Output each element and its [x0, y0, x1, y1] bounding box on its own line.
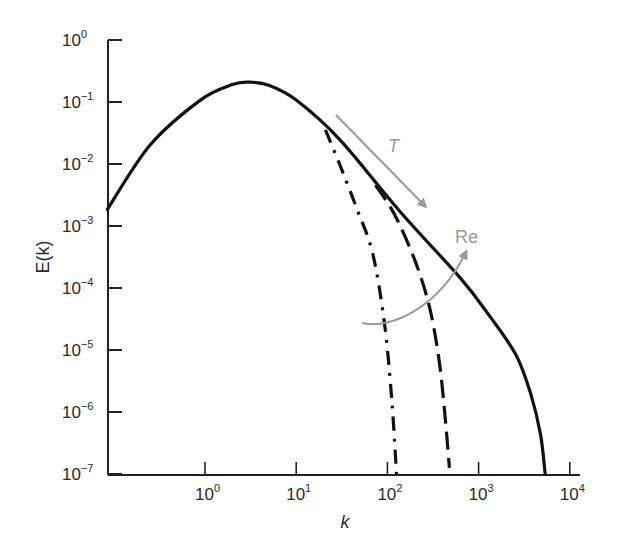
series-dashdot	[325, 130, 396, 474]
x-tick-label: 101	[286, 482, 311, 504]
energy-spectrum-chart: 10010−110−210−310−410−510−610−7 10010110…	[0, 0, 624, 553]
x-tick-label: 102	[377, 482, 402, 504]
y-tick-label: 10−6	[62, 400, 93, 422]
y-tick-label: 10−7	[62, 462, 93, 484]
x-axis-label: k	[341, 512, 351, 532]
series-solid	[107, 82, 545, 474]
y-tick-label: 10−4	[62, 276, 93, 298]
series-layer	[107, 82, 545, 474]
y-tick-label: 10−1	[62, 90, 93, 112]
temperature-label: T	[388, 136, 401, 156]
y-tick-label: 10−2	[62, 152, 93, 174]
y-tick-label: 10−3	[62, 214, 93, 236]
annotation-Re: Re	[362, 227, 478, 324]
x-tick-label: 103	[469, 482, 494, 504]
axes	[108, 40, 580, 475]
x-ticks: 100101102103104	[195, 462, 585, 504]
y-tick-label: 100	[62, 28, 87, 50]
x-tick-label: 104	[560, 482, 585, 504]
y-tick-label: 10−5	[62, 338, 93, 360]
reynolds-label: Re	[455, 227, 478, 247]
reynolds-arrow-icon	[362, 252, 466, 324]
y-ticks: 10010−110−210−310−410−510−610−7	[62, 28, 122, 484]
y-axis-label: E(k)	[33, 241, 53, 274]
x-tick-label: 100	[195, 482, 220, 504]
